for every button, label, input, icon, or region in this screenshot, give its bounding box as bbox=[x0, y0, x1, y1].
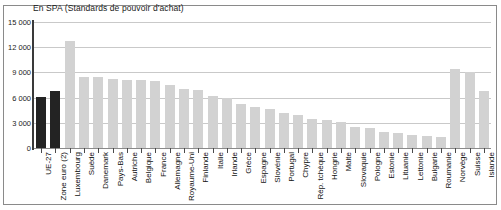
bar bbox=[136, 80, 146, 148]
x-label: Autriche bbox=[130, 152, 139, 210]
y-tick-label-15000: 15 000 bbox=[8, 18, 31, 27]
bar bbox=[208, 96, 218, 148]
bar bbox=[165, 85, 175, 148]
x-label: Zone euro (2) bbox=[59, 152, 68, 210]
x-label: Suède bbox=[87, 152, 96, 210]
bar bbox=[122, 80, 132, 148]
bar bbox=[179, 89, 189, 148]
bar bbox=[36, 97, 46, 148]
y-tick-label-6000: 6 000 bbox=[12, 93, 31, 102]
y-tick-label-0: 0 bbox=[27, 144, 31, 153]
bar bbox=[365, 128, 375, 148]
chart-unit-caption: En SPA (Standards de pouvoir d'achat) bbox=[33, 3, 184, 13]
bar bbox=[422, 136, 432, 148]
bar bbox=[108, 79, 118, 148]
bar bbox=[336, 122, 346, 148]
bar bbox=[236, 104, 246, 148]
x-label: Italie bbox=[216, 152, 225, 210]
bar bbox=[322, 120, 332, 148]
bar bbox=[436, 137, 446, 148]
bar bbox=[379, 132, 389, 148]
plot-area bbox=[34, 22, 491, 148]
x-label: Lettonie bbox=[416, 152, 425, 210]
bar bbox=[79, 77, 89, 148]
x-label: Bulgarie bbox=[430, 152, 439, 210]
y-axis-tick-labels: 15 00012 0009 0006 0003 0000 bbox=[0, 0, 31, 210]
y-tick-label-9000: 9 000 bbox=[12, 68, 31, 77]
bars-layer bbox=[34, 22, 491, 148]
y-tick-label-3000: 3 000 bbox=[12, 118, 31, 127]
bar bbox=[450, 69, 460, 148]
x-label: Danemark bbox=[101, 152, 110, 210]
x-label: Royaume-Uni bbox=[187, 152, 196, 210]
x-label: Norvège bbox=[458, 152, 467, 210]
x-label: Luxembourg bbox=[73, 152, 82, 210]
x-label: Portugal bbox=[287, 152, 296, 210]
bar bbox=[293, 115, 303, 148]
bar bbox=[193, 90, 203, 148]
x-label: Pays-Bas bbox=[116, 152, 125, 210]
x-label: Suisse bbox=[473, 152, 482, 210]
bar bbox=[479, 91, 489, 148]
x-label: Lituanie bbox=[401, 152, 410, 210]
bar bbox=[150, 81, 160, 148]
bar bbox=[393, 133, 403, 148]
bar bbox=[65, 41, 75, 148]
x-label: Rép. tchèque bbox=[316, 152, 325, 210]
x-label: Chypre bbox=[301, 152, 310, 210]
bar bbox=[465, 72, 475, 148]
x-label: Espagne bbox=[259, 152, 268, 210]
x-label: Estonie bbox=[387, 152, 396, 210]
x-label: Roumanie bbox=[444, 152, 453, 210]
x-label: France bbox=[159, 152, 168, 210]
bar bbox=[279, 113, 289, 148]
x-label: Pologne bbox=[373, 152, 382, 210]
bar bbox=[50, 91, 60, 148]
bar bbox=[307, 119, 317, 148]
bar bbox=[222, 98, 232, 148]
chart-figure: En SPA (Standards de pouvoir d'achat) 15… bbox=[0, 0, 501, 210]
x-label: Malte bbox=[344, 152, 353, 210]
x-label: Hongrie bbox=[330, 152, 339, 210]
bar bbox=[250, 107, 260, 148]
x-label: Slovénie bbox=[273, 152, 282, 210]
x-label: Irlande bbox=[230, 152, 239, 210]
bar bbox=[265, 109, 275, 148]
x-label: Grèce bbox=[244, 152, 253, 210]
x-label: UE-27 bbox=[44, 152, 53, 210]
x-label: Slovaquie bbox=[359, 152, 368, 210]
x-label: Belgique bbox=[144, 152, 153, 210]
bar bbox=[350, 127, 360, 148]
bar bbox=[93, 77, 103, 148]
bar bbox=[407, 135, 417, 148]
x-label: Finlande bbox=[201, 152, 210, 210]
x-label: Islande bbox=[487, 152, 496, 210]
y-tick-label-12000: 12 000 bbox=[8, 43, 31, 52]
x-axis-category-labels: UE-27Zone euro (2)LuxembourgSuèdeDanemar… bbox=[34, 152, 491, 208]
x-label: Allemagne bbox=[173, 152, 182, 210]
